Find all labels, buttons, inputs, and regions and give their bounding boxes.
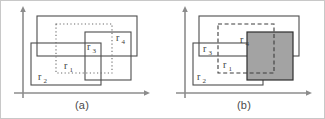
svg-text:r: r (64, 60, 68, 71)
y-axis (20, 6, 26, 98)
label-r2: r 2 (197, 71, 207, 85)
y-axis-arrow-icon (20, 6, 26, 12)
label-r1: r 1 (64, 60, 74, 74)
svg-text:r: r (116, 32, 120, 43)
label-r3: r 3 (203, 43, 213, 57)
svg-text:2: 2 (44, 77, 48, 85)
svg-text:1: 1 (229, 65, 233, 73)
panel-b: r 3 r 4 r 1 r 2 (b) (163, 1, 325, 119)
svg-text:r: r (223, 59, 227, 70)
caption-a: (a) (1, 99, 163, 111)
svg-text:r: r (197, 71, 201, 82)
svg-text:r: r (203, 43, 207, 54)
figure-container: r 3 r 4 r 1 r 2 (a) (0, 0, 325, 119)
x-axis-arrow-icon (306, 90, 312, 96)
svg-text:4: 4 (122, 38, 126, 46)
y-axis-arrow-icon (182, 6, 188, 12)
x-axis (176, 90, 312, 96)
panel-a: r 3 r 4 r 1 r 2 (a) (1, 1, 163, 119)
svg-text:2: 2 (203, 77, 207, 85)
y-axis (182, 6, 188, 98)
caption-b: (b) (163, 99, 325, 111)
x-axis-arrow-icon (144, 90, 150, 96)
svg-text:3: 3 (93, 47, 97, 55)
label-r4: r 4 (116, 32, 126, 46)
label-r2: r 2 (38, 71, 48, 85)
label-r1: r 1 (223, 59, 233, 73)
svg-text:4: 4 (246, 40, 250, 48)
svg-text:r: r (38, 71, 42, 82)
x-axis (14, 90, 150, 96)
svg-text:1: 1 (70, 66, 74, 74)
svg-text:3: 3 (209, 49, 213, 57)
